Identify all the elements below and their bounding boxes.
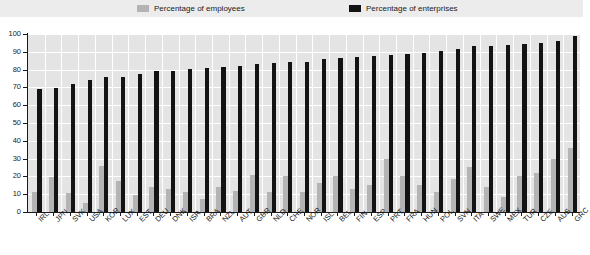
bar-group <box>245 34 262 212</box>
legend-swatch-enterprises-icon <box>349 5 361 12</box>
bar-group <box>279 34 296 212</box>
bar-enterprises <box>422 53 426 212</box>
bar-enterprises <box>372 56 376 212</box>
bar-enterprises <box>489 46 493 212</box>
bar-enterprises <box>54 88 58 212</box>
y-axis-tick-label: 30 <box>0 155 21 163</box>
bar-group <box>563 34 580 212</box>
y-axis-tick-label: 70 <box>0 83 21 91</box>
bar-group <box>312 34 329 212</box>
bar-enterprises <box>188 69 192 212</box>
bar-group <box>530 34 547 212</box>
bar-enterprises <box>221 67 225 212</box>
bar-group <box>346 34 363 212</box>
bar-enterprises <box>556 41 560 212</box>
bar-enterprises <box>338 58 342 212</box>
y-axis-tick-label: 80 <box>0 66 21 74</box>
bar-group <box>296 34 313 212</box>
bar-enterprises <box>355 57 359 212</box>
x-axis-tick-label: ITA <box>472 210 486 224</box>
bar-enterprises <box>405 54 409 212</box>
y-axis-tick-label: 10 <box>0 190 21 198</box>
y-axis-tick-label: 90 <box>0 48 21 56</box>
bar-group <box>95 34 112 212</box>
bar-group <box>396 34 413 212</box>
bar-group <box>195 34 212 212</box>
bar-enterprises <box>522 44 526 212</box>
legend-item-employees: Percentage of employees <box>137 2 245 15</box>
y-axis-tick-label: 60 <box>0 101 21 109</box>
x-axis-labels: IRLJPNSVKUSAKORLUXESTDEUDNKISRBRANZLAUTG… <box>28 213 580 255</box>
bar-enterprises <box>389 55 393 212</box>
bar-enterprises <box>71 84 75 212</box>
bar-enterprises <box>539 43 543 212</box>
y-axis-tick-label: 40 <box>0 137 21 145</box>
bar-group <box>179 34 196 212</box>
bar-enterprises <box>506 45 510 212</box>
bar-enterprises <box>439 51 443 212</box>
bar-enterprises <box>305 62 309 212</box>
bar-group <box>212 34 229 212</box>
y-axis-tick-label: 100 <box>0 30 21 38</box>
legend-item-enterprises: Percentage of enterprises <box>349 2 458 15</box>
bar-enterprises <box>121 77 125 212</box>
bar-group <box>496 34 513 212</box>
bar-enterprises <box>456 49 460 212</box>
bar-group <box>262 34 279 212</box>
bar-group <box>128 34 145 212</box>
plot-area <box>28 34 580 212</box>
bar-enterprises <box>255 64 259 212</box>
bar-group <box>513 34 530 212</box>
bar-enterprises <box>154 71 158 212</box>
bar-enterprises <box>288 62 292 212</box>
bar-enterprises <box>104 77 108 212</box>
chart-legend: Percentage of employees Percentage of en… <box>0 0 583 17</box>
bar-group <box>413 34 430 212</box>
bar-group <box>429 34 446 212</box>
bar-group <box>480 34 497 212</box>
bar-enterprises <box>138 74 142 212</box>
bar-group <box>363 34 380 212</box>
bar-enterprises <box>573 36 577 212</box>
legend-label-enterprises: Percentage of enterprises <box>366 4 458 14</box>
x-axis-tick-label: ISL <box>322 210 336 224</box>
y-axis-labels: 0102030405060708090100 <box>0 0 21 255</box>
bar-enterprises <box>322 59 326 212</box>
bar-enterprises <box>88 80 92 212</box>
bar-group <box>162 34 179 212</box>
bar-enterprises <box>205 68 209 212</box>
bar-group <box>145 34 162 212</box>
bar-group <box>379 34 396 212</box>
legend-swatch-employees-icon <box>137 5 149 12</box>
bar-group <box>229 34 246 212</box>
y-axis-tick-label: 0 <box>0 208 21 216</box>
bar-group <box>446 34 463 212</box>
bar-group <box>112 34 129 212</box>
bar-enterprises <box>171 71 175 213</box>
bar-group <box>463 34 480 212</box>
bar-group <box>78 34 95 212</box>
bar-group <box>329 34 346 212</box>
bar-enterprises <box>238 66 242 212</box>
bar-group <box>547 34 564 212</box>
bar-enterprises <box>37 89 41 212</box>
bar-group <box>61 34 78 212</box>
bar-enterprises <box>272 63 276 212</box>
bar-group <box>45 34 62 212</box>
bar-group <box>28 34 45 212</box>
y-axis-tick-label: 20 <box>0 172 21 180</box>
bar-enterprises <box>472 46 476 212</box>
y-axis-tick-label: 50 <box>0 119 21 127</box>
legend-label-employees: Percentage of employees <box>154 4 245 14</box>
